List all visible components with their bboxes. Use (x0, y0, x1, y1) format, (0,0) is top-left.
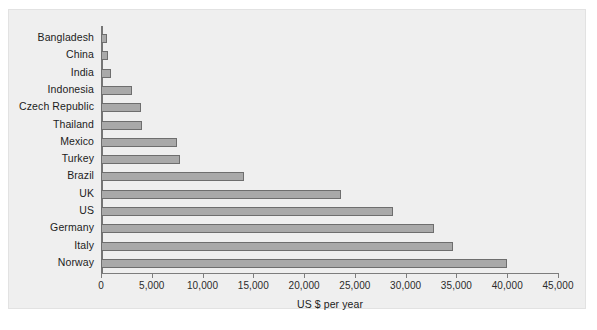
category-label: Germany (50, 221, 94, 233)
bar (101, 121, 142, 130)
bar-row: Czech Republic (101, 103, 558, 112)
category-label: India (71, 66, 94, 78)
category-label: Czech Republic (19, 100, 94, 112)
bar (101, 242, 453, 251)
category-label: Bangladesh (38, 31, 94, 43)
bar-row: China (101, 51, 558, 60)
bar-row: Norway (101, 259, 558, 268)
chart-plot-frame: BangladeshChinaIndiaIndonesiaCzech Repub… (8, 9, 586, 309)
bar (101, 34, 107, 43)
x-tick-label: 30,000 (390, 280, 421, 291)
x-tick-label: 0 (98, 280, 104, 291)
x-tick-label: 45,000 (542, 280, 573, 291)
x-tick-mark (152, 274, 153, 278)
bar (101, 155, 180, 164)
y-axis-line (101, 26, 103, 273)
chart-figure: BangladeshChinaIndiaIndonesiaCzech Repub… (0, 0, 597, 330)
bar (101, 224, 434, 233)
bar (101, 86, 132, 95)
x-tick-label: 15,000 (238, 280, 269, 291)
bar-row: Mexico (101, 138, 558, 147)
bar-row: India (101, 69, 558, 78)
bar-row: Thailand (101, 121, 558, 130)
x-tick-mark (558, 274, 559, 278)
x-tick-mark (203, 274, 204, 278)
bar (101, 190, 341, 199)
category-label: Norway (58, 256, 94, 268)
x-tick-mark (456, 274, 457, 278)
plot-area: BangladeshChinaIndiaIndonesiaCzech Repub… (101, 26, 558, 271)
x-tick-mark (406, 274, 407, 278)
x-tick-label: 35,000 (441, 280, 472, 291)
bar-row: Turkey (101, 155, 558, 164)
category-label: Thailand (53, 118, 94, 130)
category-label: US (79, 204, 94, 216)
bar-row: Brazil (101, 172, 558, 181)
category-label: Italy (74, 239, 94, 251)
bar (101, 69, 111, 78)
bar-row: Italy (101, 242, 558, 251)
x-tick-label: 5,000 (139, 280, 165, 291)
bar (101, 172, 244, 181)
category-label: Brazil (67, 169, 94, 181)
x-tick-label: 40,000 (492, 280, 523, 291)
category-label: Indonesia (48, 83, 94, 95)
bar-row: Indonesia (101, 86, 558, 95)
x-tick-mark (253, 274, 254, 278)
bar-row: UK (101, 190, 558, 199)
bar-row: Germany (101, 224, 558, 233)
bar (101, 259, 507, 268)
x-axis-line (101, 273, 559, 274)
category-label: Turkey (62, 152, 94, 164)
x-tick-label: 20,000 (289, 280, 320, 291)
x-tick-label: 10,000 (187, 280, 218, 291)
bar (101, 138, 177, 147)
bar-row: Bangladesh (101, 34, 558, 43)
category-label: Mexico (60, 135, 94, 147)
category-label: UK (79, 187, 94, 199)
x-tick-mark (101, 274, 102, 278)
x-tick-mark (507, 274, 508, 278)
bar (101, 103, 141, 112)
bar (101, 207, 393, 216)
x-axis-title: US $ per year (101, 298, 559, 310)
x-tick-mark (304, 274, 305, 278)
x-tick-label: 25,000 (339, 280, 370, 291)
bar (101, 51, 108, 60)
bar-row: US (101, 207, 558, 216)
x-tick-mark (355, 274, 356, 278)
category-label: China (66, 48, 94, 60)
